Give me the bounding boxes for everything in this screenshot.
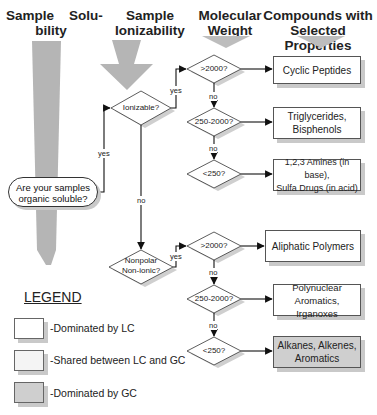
result-text: Aromatics — [278, 352, 357, 365]
nonpolar-line1: Nonpolar — [112, 256, 170, 266]
decision-ion-mid-label: 250-2000? — [188, 117, 240, 126]
start-line1: Are your samples — [9, 182, 97, 193]
decision-nonpolar-label: Nonpolar Non-ionic? — [112, 256, 170, 276]
edge-no-np2: no — [209, 321, 217, 330]
result-text: Irganoxes — [274, 307, 360, 320]
solubility-arrow-icon — [32, 41, 61, 265]
legend-title: LEGEND — [24, 289, 82, 305]
result-text: Bisphenols — [287, 123, 346, 136]
nonpolar-line2: Non-ionic? — [112, 266, 170, 276]
edge-yes-start: yes — [98, 149, 110, 158]
legend-swatch-shared — [14, 350, 44, 371]
edge-no-ionizable: no — [137, 196, 145, 205]
decision-ion-lt250-label: <250? — [190, 169, 238, 178]
legend-swatch-gc — [14, 382, 44, 403]
edge-no-ion2: no — [209, 144, 217, 153]
legend-label-shared: -Shared between LC and GC — [50, 354, 185, 366]
compounds-arrow-icon — [297, 36, 345, 48]
legend-label-gc: -Dominated by GC — [50, 387, 137, 399]
result-text: Sulfa Drugs (in acid) — [274, 182, 360, 195]
result-text: Aliphatic Polymers — [272, 240, 354, 253]
result-polynuclear-aromatics: Polynuclear Aromatics,Irganoxes — [273, 284, 361, 316]
start-node: Are your samples organic soluble? — [8, 177, 98, 207]
result-triglycerides: Triglycerides,Bisphenols — [273, 107, 361, 139]
decision-ionizable-label: Ionizable? — [116, 103, 166, 112]
result-text: Polynuclear Aromatics, — [274, 281, 360, 307]
edge-no-np1: no — [209, 268, 217, 277]
legend-label-lc: -Dominated by LC — [50, 322, 135, 334]
decision-ion-gt2000-label: >2000? — [190, 64, 238, 73]
decision-np-lt250-label: <250? — [190, 346, 238, 355]
ionizability-arrow-icon — [100, 40, 153, 90]
edge-yes-ionizable: yes — [170, 86, 182, 95]
edge-yes-nonpolar: yes — [170, 252, 182, 261]
start-line2: organic soluble? — [9, 193, 97, 204]
edge-no-ion1: no — [209, 92, 217, 101]
decision-np-mid-label: 250-2000? — [188, 294, 240, 303]
result-alkanes: Alkanes, Alkenes,Aromatics — [273, 336, 361, 368]
decision-np-gt2000-label: >2000? — [190, 241, 238, 250]
legend-swatch-lc — [14, 318, 44, 339]
result-amines: 1,2,3 Amines (in base),Sulfa Drugs (in a… — [273, 159, 361, 191]
result-text: Triglycerides, — [287, 110, 346, 123]
result-text: Cyclic Peptides — [283, 64, 351, 77]
result-text: 1,2,3 Amines (in base), — [274, 156, 360, 182]
mw-arrow-icon — [202, 36, 250, 48]
result-text: Alkanes, Alkenes, — [278, 339, 357, 352]
result-aliphatic-polymers: Aliphatic Polymers — [265, 230, 361, 262]
result-cyclic-peptides: Cyclic Peptides — [273, 56, 361, 84]
